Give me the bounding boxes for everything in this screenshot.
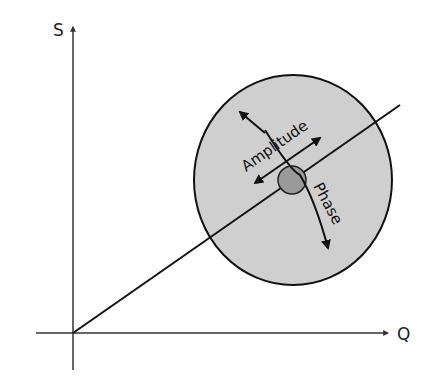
phase-amplitude-diagram: Amplitude Phase S Q bbox=[0, 0, 448, 385]
q-axis-label: Q bbox=[397, 324, 410, 344]
s-axis-label: S bbox=[53, 20, 64, 40]
